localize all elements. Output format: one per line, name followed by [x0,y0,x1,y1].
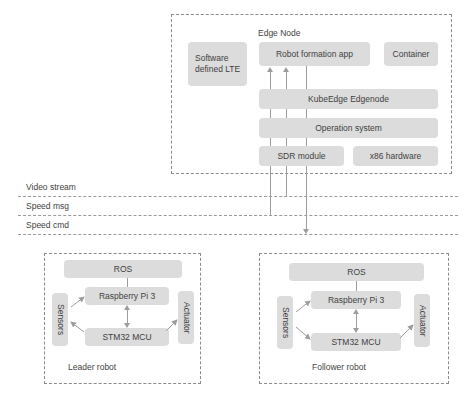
follower-diagonal-arrows [0,0,475,401]
diagram-canvas: Edge Node Software defined LTE Robot for… [0,0,475,401]
